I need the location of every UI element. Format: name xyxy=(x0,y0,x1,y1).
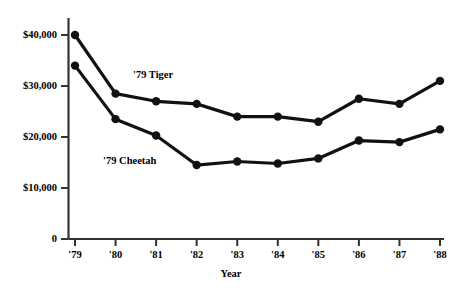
data-point-marker xyxy=(233,157,241,165)
x-tick-label: '83 xyxy=(217,249,257,260)
data-point-marker xyxy=(111,89,119,97)
x-tick-label: '86 xyxy=(339,249,379,260)
y-tick-label: $40,000 xyxy=(0,29,57,40)
x-tick-label: '80 xyxy=(96,249,136,260)
data-point-marker xyxy=(111,115,119,123)
y-tick-label: $10,000 xyxy=(0,182,57,193)
x-axis-title: Year xyxy=(0,268,462,279)
data-point-marker xyxy=(71,61,79,69)
x-tick-label: '87 xyxy=(379,249,419,260)
data-point-marker xyxy=(314,154,322,162)
data-point-marker xyxy=(355,95,363,103)
x-tick-label: '82 xyxy=(177,249,217,260)
y-tick-label: 0 xyxy=(0,233,57,244)
data-point-marker xyxy=(152,97,160,105)
y-axis-ticks xyxy=(61,35,69,239)
data-point-marker xyxy=(395,138,403,146)
series-label: '79 Tiger xyxy=(133,69,173,80)
data-point-marker xyxy=(152,131,160,139)
data-point-marker xyxy=(314,118,322,126)
data-point-marker xyxy=(436,125,444,133)
data-point-marker xyxy=(436,77,444,85)
data-point-marker xyxy=(274,159,282,167)
data-point-marker xyxy=(274,112,282,120)
x-tick-label: '84 xyxy=(258,249,298,260)
data-point-marker xyxy=(395,100,403,108)
line-chart: 0$10,000$20,000$30,000$40,000 '79'80'81'… xyxy=(0,0,462,295)
series-markers xyxy=(71,31,444,169)
series-label: '79 Cheetah xyxy=(103,155,156,166)
x-tick-label: '81 xyxy=(136,249,176,260)
data-point-marker xyxy=(192,100,200,108)
x-tick-label: '79 xyxy=(55,249,95,260)
y-tick-label: $20,000 xyxy=(0,131,57,142)
series-line xyxy=(75,35,440,122)
x-tick-label: '88 xyxy=(420,249,460,260)
data-point-marker xyxy=(71,31,79,39)
series-lines xyxy=(75,35,440,165)
data-point-marker xyxy=(233,112,241,120)
x-tick-label: '85 xyxy=(298,249,338,260)
data-point-marker xyxy=(355,136,363,144)
y-tick-label: $30,000 xyxy=(0,80,57,91)
data-point-marker xyxy=(192,161,200,169)
